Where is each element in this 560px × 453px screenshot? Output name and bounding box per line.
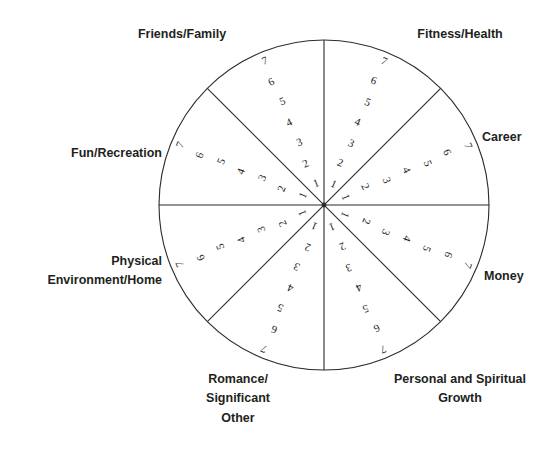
sector-label-personal-and-spiritual-growth: Personal and Spiritual Growth (370, 370, 550, 409)
sector-label-friends-family: Friends/Family (112, 25, 252, 44)
wheel-center-group (322, 203, 327, 208)
sector-label-fitness-health: Fitness/Health (390, 25, 530, 44)
sector-label-money: Money (484, 267, 560, 286)
sector-label-romance-significant-other: Romance/ Significant Other (178, 370, 298, 428)
sector-label-career: Career (482, 128, 560, 147)
wheel-center-dot (322, 203, 327, 208)
wheel-of-life-diagram: 1234567123456712345671234567123456712345… (0, 0, 560, 453)
sector-label-fun-recreation: Fun/Recreation (20, 144, 162, 163)
sector-label-physical-environment-home: Physical Environment/Home (14, 252, 162, 291)
